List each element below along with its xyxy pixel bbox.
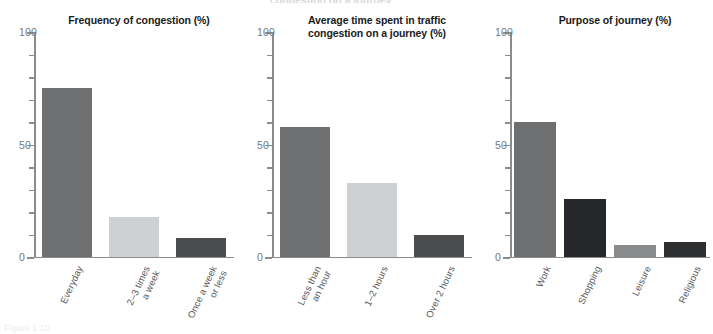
y-axis-tick-minor [267,100,272,102]
y-axis-line [272,32,274,258]
y-axis-tick-minor [505,77,510,79]
y-axis-tick-label: 50 [19,139,22,151]
x-axis-label-line: Leisure [630,264,653,298]
y-axis-tick-major [265,257,272,259]
chart-panel-purpose-of-journey: Purpose of journey (%) 100500 WorkShoppi… [476,0,713,327]
y-axis-tick-minor [29,122,34,124]
plot-area: 100500 Everyday2–3 timesa weekOnce a wee… [34,32,234,257]
chart-title-line1: Frequency of congestion (%) [68,14,209,26]
bar [514,122,556,257]
y-axis-tick-minor [267,190,272,192]
y-axis-tick-minor [505,212,510,214]
chart-title-line1: Purpose of journey (%) [559,14,672,26]
x-axis-label-text: Shopping [576,264,603,306]
y-axis-tick-minor [29,167,34,169]
y-axis-tick-label: 0 [19,251,22,263]
x-axis-label-text: 2–3 timesa week [124,264,162,311]
y-axis-tick-major [503,257,510,259]
y-axis-tick-minor [267,77,272,79]
x-axis-label-text: Work [534,264,553,289]
x-axis-label-text: Less thanan hour [296,264,334,311]
y-axis-tick-minor [267,212,272,214]
x-axis-label-text: Over 2 hours [423,264,457,320]
chart-title-line1: Average time spent in traffic [308,14,446,26]
bar [280,127,330,258]
y-axis-tick-label: 100 [19,26,22,38]
y-axis-line [34,32,36,258]
y-axis-tick-minor [505,122,510,124]
y-axis-tick-minor [505,100,510,102]
y-axis-tick-minor [267,167,272,169]
y-axis-tick-minor [505,55,510,57]
bar [42,88,92,257]
y-axis-tick-label: 100 [257,26,260,38]
y-axis-tick-minor [29,235,34,237]
y-axis-tick-minor [267,55,272,57]
x-axis-label-text: 1–2 hours [362,264,390,308]
y-axis-tick-minor [505,190,510,192]
plot-area: 100500 WorkShoppingLeisureReligious [510,32,710,257]
y-axis-tick-minor [29,55,34,57]
x-axis-label-line: Everyday [58,264,85,305]
y-axis-tick-minor [29,212,34,214]
x-axis-label-line: Shopping [576,264,603,306]
x-axis-label-text: Leisure [630,264,653,298]
x-axis-label-text: Religious [676,264,703,305]
y-axis-tick-minor [29,77,34,79]
x-axis-label-text: Once a weekor less [185,264,229,325]
y-axis-line [510,32,512,258]
y-axis-tick-minor [29,100,34,102]
chart-panel-frequency-of-congestion: Frequency of congestion (%) 100500 Every… [0,0,238,327]
plot-area: 100500 Less thanan hour1–2 hoursOver 2 h… [272,32,472,257]
chart-title: Purpose of journey (%) [510,14,713,27]
x-axis-label-line: Religious [676,264,703,305]
y-axis-tick-major [27,257,34,259]
cropped-text-bottom: Figure 1.10 [4,323,224,334]
y-axis-tick-label: 0 [257,251,260,263]
x-axis-label-line: 1–2 hours [362,264,390,308]
x-axis-label-line: Work [534,264,553,289]
y-axis-tick-label: 100 [495,26,498,38]
y-axis-tick-minor [29,190,34,192]
y-axis-tick-minor [267,235,272,237]
y-axis-tick-label: 50 [495,139,498,151]
chart-title: Frequency of congestion (%) [34,14,244,27]
y-axis-tick-label: 0 [495,251,498,263]
y-axis-tick-minor [505,167,510,169]
x-axis-label-line: Over 2 hours [423,264,457,320]
y-axis-tick-minor [267,122,272,124]
y-axis-tick-label: 50 [257,139,260,151]
y-axis-tick-minor [505,235,510,237]
x-axis-label-text: Everyday [58,264,85,305]
chart-panel-average-time-in-congestion: Average time spent in traffic congestion… [238,0,476,327]
